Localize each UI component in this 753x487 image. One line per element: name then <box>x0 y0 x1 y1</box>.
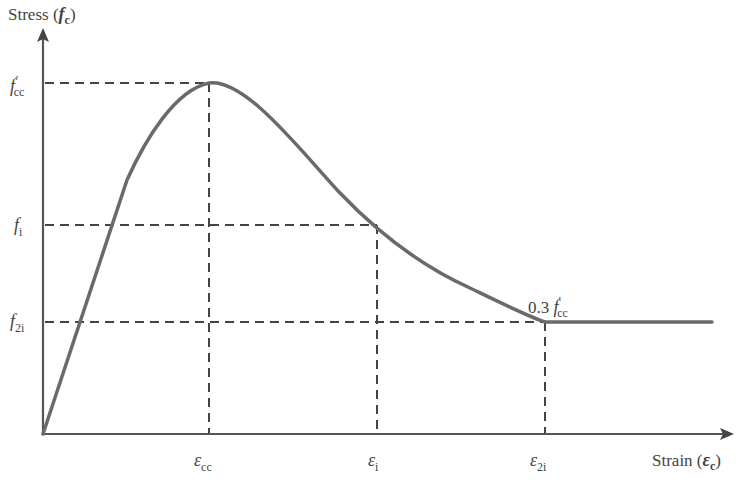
stress-strain-diagram: Stress (fc) f′cc fi f2i εcc εi ε2i Strai… <box>0 0 753 487</box>
residual-stress-annotation: 0.3 f′cc <box>528 294 568 320</box>
x-axis-title: Strain (εc) <box>652 450 721 473</box>
x-tick-ecc: εcc <box>194 450 212 474</box>
y-tick-fcc: f′cc <box>10 73 24 99</box>
y-tick-f2i: f2i <box>10 311 25 335</box>
x-tick-e2i: ε2i <box>530 450 547 474</box>
x-tick-ei: εi <box>368 450 379 474</box>
y-axis-title: Stress (fc) <box>8 4 76 27</box>
y-tick-fi: fi <box>14 215 23 239</box>
guide-lines <box>45 83 545 434</box>
